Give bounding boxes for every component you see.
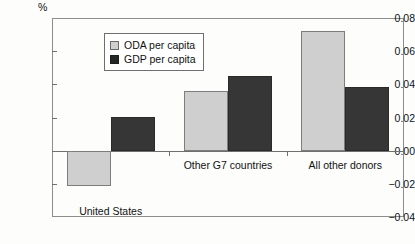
bar-gdp-2 [345, 87, 389, 150]
y-tick-mark [52, 118, 57, 119]
category-label-1: Other G7 countries [184, 159, 273, 171]
y-tick-mark [52, 84, 57, 85]
category-label-0: United States [79, 205, 142, 217]
y-tick-mark [52, 51, 57, 52]
chart-figure: % 0.080.060.040.020.00−0.02−0.04 United … [0, 0, 415, 244]
category-label-2: All other donors [309, 159, 383, 171]
legend-swatch-oda-icon [110, 41, 119, 50]
bar-oda-2 [301, 31, 345, 150]
legend-label-oda: ODA per capita [124, 40, 195, 51]
bar-oda-0 [67, 151, 111, 187]
legend-item-oda: ODA per capita [110, 38, 196, 52]
y-tick-mark [52, 184, 57, 185]
bar-gdp-0 [111, 117, 155, 151]
bar-oda-1 [184, 91, 228, 151]
bar-gdp-1 [228, 76, 272, 151]
legend-item-gdp: GDP per capita [110, 52, 196, 66]
legend-label-gdp: GDP per capita [124, 54, 196, 65]
legend-swatch-gdp-icon [110, 55, 119, 64]
chart-legend: ODA per capita GDP per capita [104, 33, 204, 71]
y-axis-unit-label: % [38, 1, 48, 13]
